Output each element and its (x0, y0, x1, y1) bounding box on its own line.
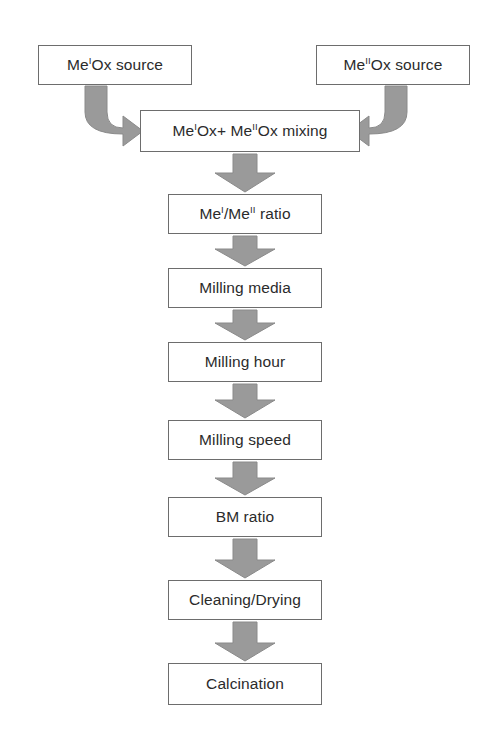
node-milling-speed[interactable]: Milling speed (168, 420, 322, 460)
node-calcination-label: Calcination (206, 676, 284, 692)
node-milling-media[interactable]: Milling media (168, 268, 322, 308)
flowchart-canvas: MeIOx source MeIIOx source MeIOx+ MeIIOx… (0, 0, 492, 742)
arrow-cleaning-drying-to-calcination-icon (215, 622, 275, 661)
arrow-source1-to-mixing-icon (85, 86, 143, 146)
arrow-milling-hour-to-milling-speed-icon (215, 384, 275, 418)
node-ratio-label: MeI/MeII ratio (199, 206, 290, 222)
node-milling-hour-label: Milling hour (205, 354, 285, 370)
arrow-bm-ratio-to-cleaning-drying-icon (215, 539, 275, 578)
node-source-2[interactable]: MeIIOx source (316, 45, 470, 85)
node-bm-ratio[interactable]: BM ratio (168, 497, 322, 537)
node-cleaning-drying-label: Cleaning/Drying (189, 592, 301, 608)
node-milling-speed-label: Milling speed (199, 432, 291, 448)
arrow-milling-media-to-milling-hour-icon (215, 310, 275, 340)
node-milling-hour[interactable]: Milling hour (168, 342, 322, 382)
node-source-1-label: MeIOx source (67, 57, 163, 73)
arrow-milling-speed-to-bm-ratio-icon (215, 462, 275, 495)
arrow-mixing-to-ratio-icon (215, 154, 275, 192)
node-bm-ratio-label: BM ratio (216, 509, 275, 525)
node-source-1[interactable]: MeIOx source (38, 45, 192, 85)
node-cleaning-drying[interactable]: Cleaning/Drying (168, 580, 322, 620)
node-calcination[interactable]: Calcination (168, 663, 322, 705)
node-milling-media-label: Milling media (199, 280, 291, 296)
node-source-2-label: MeIIOx source (344, 57, 443, 73)
arrow-ratio-to-milling-media-icon (215, 236, 275, 266)
node-mixing[interactable]: MeIOx+ MeIIOx mixing (140, 110, 360, 152)
node-ratio[interactable]: MeI/MeII ratio (168, 194, 322, 234)
node-mixing-label: MeIOx+ MeIIOx mixing (172, 123, 327, 139)
